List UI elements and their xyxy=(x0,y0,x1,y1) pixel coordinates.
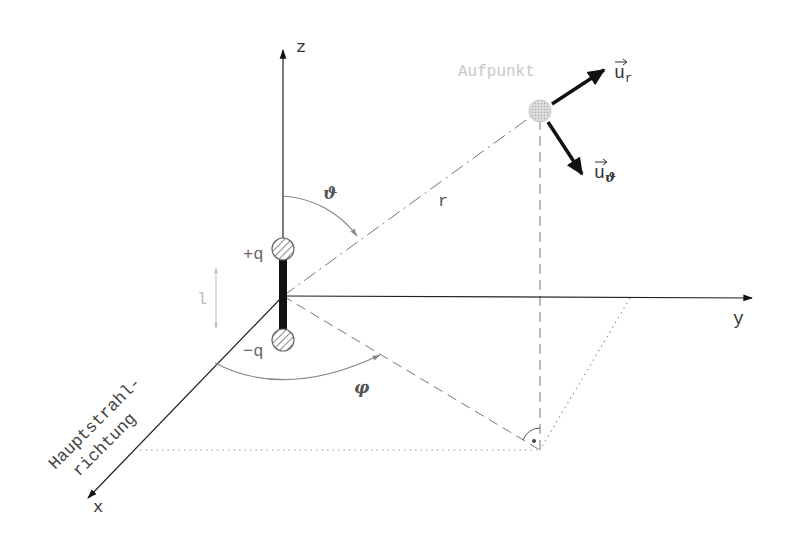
u-theta-label: u ϑ xyxy=(594,159,616,185)
y-axis-label: y xyxy=(733,309,744,329)
aufpunkt-point xyxy=(529,100,551,122)
y-axis xyxy=(283,296,752,298)
dipole-diagram: z y x ϑ φ r +q −q l Hauptstrahl- richtun… xyxy=(0,0,791,536)
u-r-vector xyxy=(552,70,604,104)
aufpunkt-label: Aufpunkt xyxy=(458,63,535,81)
u-theta-vector xyxy=(548,122,582,174)
dashed-construction-lines xyxy=(283,110,540,450)
hauptstrahl-label: Hauptstrahl- richtung xyxy=(45,374,161,490)
theta-arc xyxy=(283,196,357,236)
plus-charge-icon xyxy=(272,238,294,260)
svg-text:u: u xyxy=(594,163,605,183)
phi-arc xyxy=(215,355,380,380)
x-axis-label: x xyxy=(93,498,103,517)
theta-label: ϑ xyxy=(323,183,337,203)
dotted-projection-lines xyxy=(140,298,630,450)
length-label: l xyxy=(197,290,207,309)
plus-q-label: +q xyxy=(243,245,263,264)
u-r-label: u r xyxy=(614,59,632,86)
right-angle-icon xyxy=(523,428,540,443)
svg-text:ϑ: ϑ xyxy=(605,170,616,185)
minus-q-label: −q xyxy=(243,342,263,361)
minus-charge-icon xyxy=(272,329,294,351)
svg-text:u: u xyxy=(614,63,625,83)
phi-label: φ xyxy=(354,377,370,397)
r-label: r xyxy=(438,192,448,211)
dipole xyxy=(272,238,294,351)
svg-text:r: r xyxy=(625,72,632,86)
z-axis-label: z xyxy=(296,38,306,57)
